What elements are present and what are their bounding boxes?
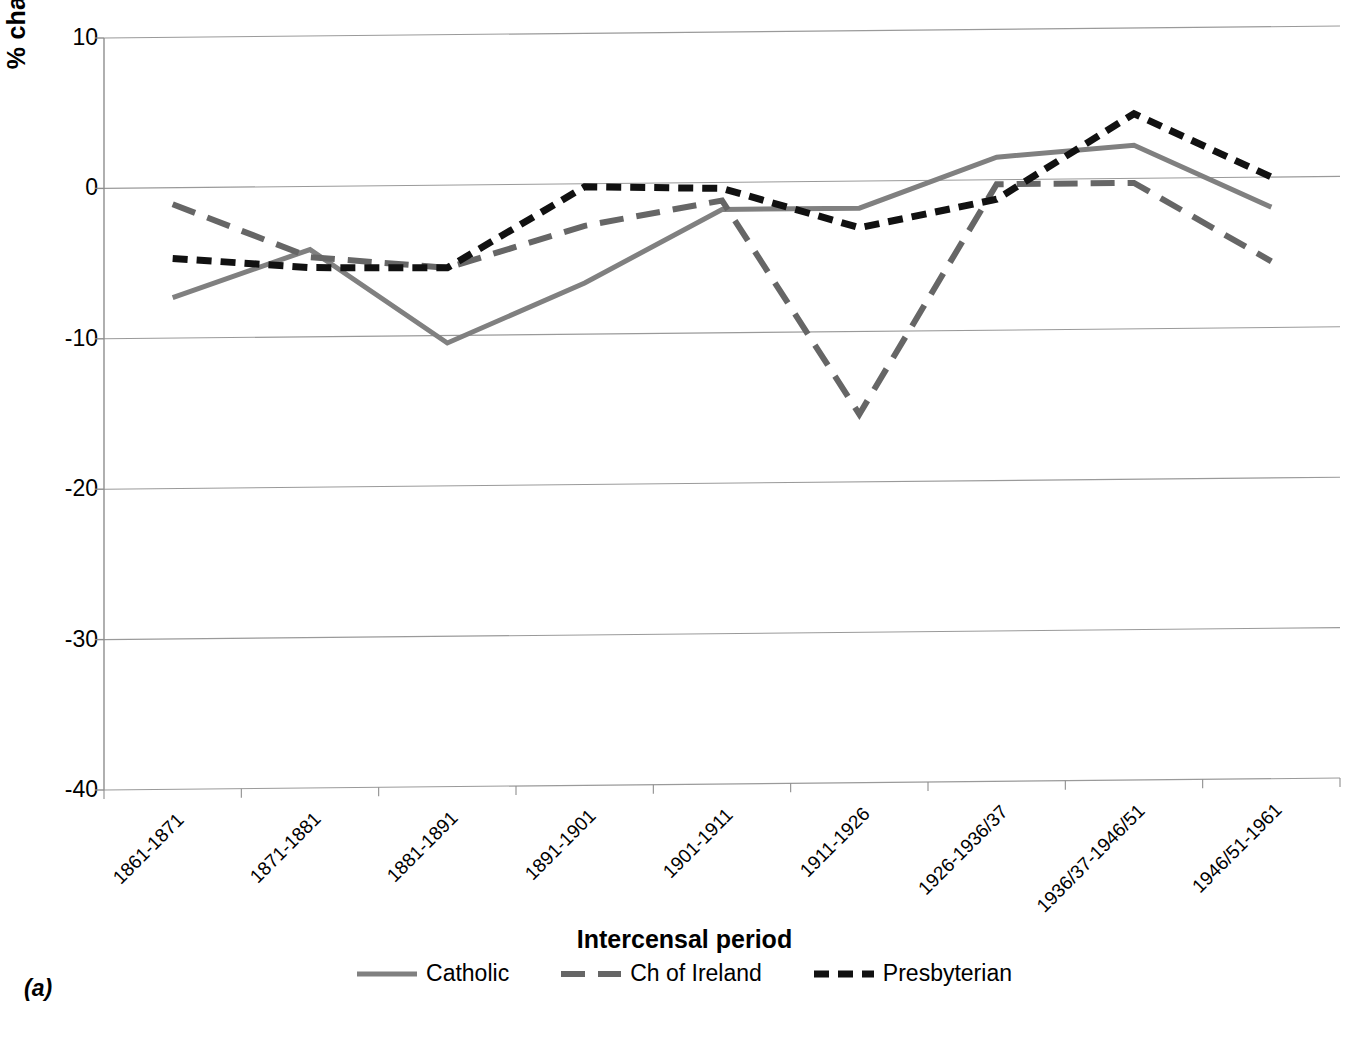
legend-swatch-solid-icon bbox=[357, 968, 417, 980]
plot-area bbox=[0, 0, 1369, 1058]
legend-label: Catholic bbox=[426, 962, 509, 985]
legend-swatch-short-dash-icon bbox=[814, 968, 874, 980]
series-line-ch-of-ireland bbox=[173, 183, 1272, 414]
legend-item[interactable]: Ch of Ireland bbox=[561, 962, 762, 985]
legend-item[interactable]: Catholic bbox=[357, 962, 509, 985]
series-line-presbyterian bbox=[173, 114, 1272, 268]
chart-legend: CatholicCh of IrelandPresbyterian bbox=[0, 962, 1369, 985]
series-line-catholic bbox=[173, 145, 1272, 343]
gridline-y bbox=[104, 778, 1340, 790]
panel-label: (a) bbox=[24, 975, 52, 1002]
legend-label: Ch of Ireland bbox=[630, 962, 762, 985]
gridline-y bbox=[104, 477, 1340, 489]
chart-figure: % change 100-10-20-30-40 1861-18711871-1… bbox=[0, 0, 1369, 1058]
legend-item[interactable]: Presbyterian bbox=[814, 962, 1012, 985]
legend-label: Presbyterian bbox=[883, 962, 1012, 985]
x-axis-title: Intercensal period bbox=[0, 925, 1369, 954]
gridline-y bbox=[104, 26, 1340, 38]
legend-swatch-long-dash-icon bbox=[561, 968, 621, 980]
gridline-y bbox=[104, 176, 1340, 188]
gridline-y bbox=[104, 628, 1340, 640]
gridline-y bbox=[104, 327, 1340, 339]
